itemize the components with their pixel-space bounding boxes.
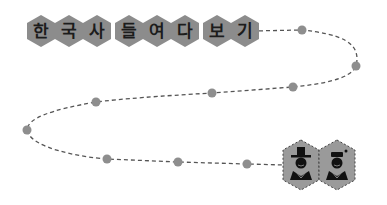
illustration: 한국사들여다보기 bbox=[0, 0, 387, 205]
character-hex-commoner bbox=[319, 140, 355, 190]
gat-hat-icon bbox=[297, 147, 305, 156]
character-hexagons bbox=[0, 0, 387, 205]
character-hex-scholar bbox=[283, 140, 319, 190]
cap-hat-icon bbox=[331, 152, 343, 157]
